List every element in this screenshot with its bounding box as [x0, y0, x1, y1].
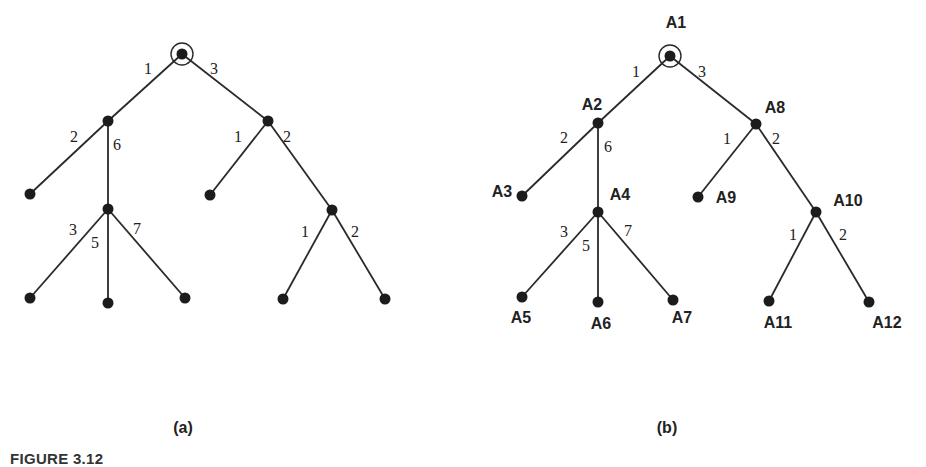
edge-weight: 7	[624, 222, 632, 239]
node-label: A9	[716, 189, 737, 206]
node-label: A10	[833, 192, 862, 209]
node-label: A1	[666, 14, 687, 31]
tree-node	[103, 298, 114, 309]
edge-weight: 1	[789, 226, 797, 243]
tree-node	[593, 207, 604, 218]
node-label: A6	[591, 315, 612, 332]
edge-weight: 3	[560, 223, 568, 240]
edge-weight: 6	[604, 138, 612, 155]
node-label: A4	[610, 186, 631, 203]
panel-a-tree: 13263571212(a)	[25, 43, 391, 436]
edge-n4-n7	[108, 209, 185, 298]
edge-A1-A8	[670, 56, 756, 124]
panel-b-labeled-tree: 13263571212A1A2A3A4A5A6A7A8A9A10A11A12(b…	[492, 14, 902, 436]
node-label: A5	[511, 309, 532, 326]
tree-node	[103, 204, 114, 215]
edge-A8-A10	[756, 124, 816, 212]
edge-weight: 1	[144, 60, 152, 77]
edge-weight: 6	[113, 136, 121, 153]
tree-node	[864, 297, 875, 308]
node-label: A7	[672, 309, 693, 326]
panel-label: (a)	[173, 419, 193, 436]
edge-weight: 2	[351, 223, 359, 240]
tree-node	[693, 192, 704, 203]
edge-weight: 1	[301, 223, 309, 240]
tree-node	[327, 205, 338, 216]
edge-weight: 2	[560, 129, 568, 146]
panel-label: (b)	[657, 419, 677, 436]
edge-A4-A7	[598, 212, 673, 300]
edge-weight: 1	[723, 130, 731, 147]
edge-weight: 3	[69, 221, 77, 238]
tree-node	[380, 294, 391, 305]
tree-node	[593, 118, 604, 129]
node-label: A2	[582, 96, 603, 113]
node-label: A3	[492, 183, 513, 200]
tree-node	[278, 294, 289, 305]
edge-weight: 2	[839, 226, 847, 243]
edge-weight: 2	[70, 128, 78, 145]
tree-node	[764, 296, 775, 307]
tree-node	[517, 191, 528, 202]
edge-weight: 7	[133, 220, 141, 237]
tree-node	[665, 51, 676, 62]
edge-weight: 3	[698, 63, 706, 80]
tree-node	[205, 190, 216, 201]
tree-node	[263, 116, 274, 127]
node-label: A11	[764, 314, 793, 331]
tree-node	[25, 189, 36, 200]
tree-node	[517, 292, 528, 303]
edge-n2-n3	[30, 121, 108, 194]
tree-node	[180, 293, 191, 304]
tree-node	[593, 297, 604, 308]
tree-node	[103, 116, 114, 127]
edge-weight: 3	[210, 60, 218, 77]
node-label: A8	[765, 99, 786, 116]
node-label: A12	[872, 314, 901, 331]
tree-node	[668, 295, 679, 306]
edge-n8-n10	[268, 121, 332, 210]
edge-weight: 1	[632, 63, 640, 80]
edge-weight: 2	[283, 128, 291, 145]
tree-node	[751, 119, 762, 130]
edge-weight: 2	[772, 130, 780, 147]
edge-weight: 5	[91, 234, 99, 251]
figure-caption: FIGURE 3.12	[10, 450, 103, 467]
tree-node	[25, 293, 36, 304]
tree-node	[177, 49, 188, 60]
edge-r-n8	[182, 54, 268, 121]
edge-weight: 5	[582, 237, 590, 254]
tree-node	[811, 207, 822, 218]
edge-weight: 1	[234, 128, 242, 145]
